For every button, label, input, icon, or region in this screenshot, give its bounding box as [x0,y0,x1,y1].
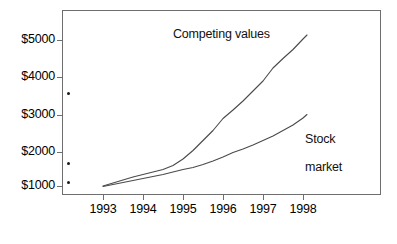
x-tick-label-1998: 1998 [281,203,325,216]
series-annotation-stock-market-line2: market [305,160,342,174]
x-tick-label-1993: 1993 [81,203,125,216]
series-annotation-stock-market: Stock market [305,118,342,188]
x-tick-label-1996: 1996 [201,203,245,216]
x-tick-label-1994: 1994 [121,203,165,216]
x-tick-label-1997: 1997 [241,203,285,216]
series-annotation-competing-values: Competing values [173,27,270,41]
ink-speck-icon-1 [67,92,70,95]
x-tick-label-1995: 1995 [161,203,205,216]
chart-container: $5000 $4000 $3000 $2000 $1000 1993 1994 … [0,0,397,244]
ink-speck-icon-3 [67,181,70,184]
ink-speck-icon-2 [67,162,70,165]
series-annotation-stock-market-line1: Stock [305,132,342,146]
